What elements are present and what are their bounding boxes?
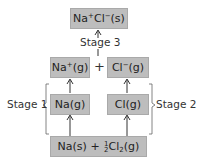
reactants-box: Na(s) + 12Cl2(g): [50, 136, 147, 157]
cl-ion-box: Cl−(g): [107, 57, 149, 78]
cl-gas-box: Cl(g): [107, 94, 149, 115]
reactants-label: Na(s) + 12Cl2(g): [58, 140, 140, 153]
na-gas-label: Na(g): [55, 98, 86, 111]
na-ion-label: Na+(g): [52, 61, 88, 74]
na-ion-box: Na+(g): [50, 57, 90, 78]
stage1-label: Stage 1: [7, 98, 47, 110]
plus-sign: +: [94, 59, 105, 74]
product-box-nacl-solid: Na+Cl−(s): [70, 8, 128, 29]
product-label: Na+Cl−(s): [73, 12, 125, 25]
cl-ion-label: Cl−(g): [112, 61, 144, 74]
stage2-label: Stage 2: [156, 98, 196, 110]
na-gas-box: Na(g): [50, 94, 90, 115]
cl-gas-label: Cl(g): [115, 98, 141, 111]
stage3-label: Stage 3: [80, 36, 120, 48]
